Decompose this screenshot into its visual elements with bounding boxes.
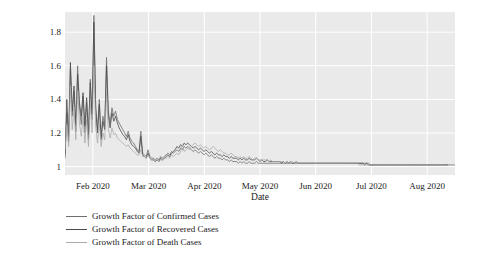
- series-lines: [65, 12, 455, 175]
- x-tick-label: Jul 2020: [356, 182, 387, 191]
- x-tick-label: Apr 2020: [187, 182, 221, 191]
- plot-area: 11.21.41.61.8 Feb 2020Mar 2020Apr 2020Ma…: [65, 12, 455, 175]
- legend-item-label: Growth Factor of Death Cases: [92, 237, 201, 248]
- legend-line-icon: [66, 242, 87, 243]
- legend-line-icon: [66, 216, 87, 217]
- x-tick-label: Feb 2020: [76, 182, 110, 191]
- x-tick-label: Jun 2020: [299, 182, 332, 191]
- y-tick-label: 1: [57, 162, 62, 171]
- chart-legend: Growth Factor of Confirmed CasesGrowth F…: [66, 211, 219, 248]
- growth-factor-chart-figure: Growth Factor 11.21.41.61.8 Feb 2020Mar …: [0, 0, 478, 264]
- x-tick-label: Aug 2020: [409, 182, 445, 191]
- y-tick-label: 1.8: [50, 28, 61, 37]
- y-tick-label: 1.6: [50, 61, 61, 70]
- legend-line-icon: [66, 229, 87, 230]
- x-tick-label: May 2020: [242, 182, 279, 191]
- legend-item[interactable]: Growth Factor of Death Cases: [66, 237, 219, 248]
- legend-item-label: Growth Factor of Confirmed Cases: [92, 211, 219, 222]
- y-tick-label: 1.2: [50, 128, 61, 137]
- x-axis-title: Date: [65, 192, 455, 202]
- legend-item[interactable]: Growth Factor of Confirmed Cases: [66, 211, 219, 222]
- x-tick-label: Mar 2020: [131, 182, 166, 191]
- legend-item-label: Growth Factor of Recovered Cases: [92, 224, 218, 235]
- y-tick-label: 1.4: [50, 95, 61, 104]
- legend-item[interactable]: Growth Factor of Recovered Cases: [66, 224, 219, 235]
